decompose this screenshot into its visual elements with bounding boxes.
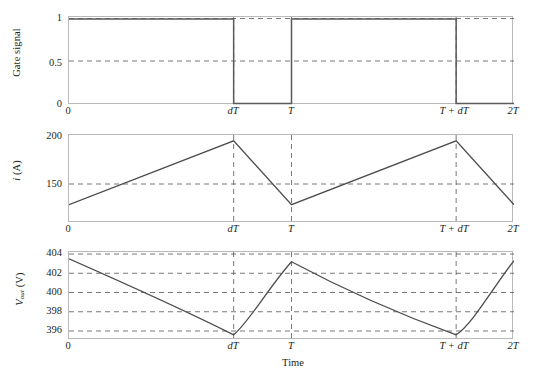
x-tick-gate-TdT: T + dT [421,106,487,117]
y-tick-gate-05: 0.5 [30,58,62,69]
x-tick-vout-dT: dT [213,341,253,352]
x-tick-gate-0: 0 [56,106,80,117]
subplot-gate-signal: Gate signal 1 0.5 0 0 dT T T + dT 2T [0,0,541,118]
output-voltage-svg [69,252,514,340]
x-tick-current-dT: dT [213,224,253,235]
plot-area-output-voltage [68,251,513,339]
x-tick-current-0: 0 [56,224,80,235]
x-tick-gate-T: T [274,106,308,117]
y-axis-label-current: i (A) [11,143,22,199]
y-tick-gate-1: 1 [38,13,62,24]
x-tick-current-T: T [274,224,308,235]
y-tick-vout-400: 400 [30,287,62,298]
y-axis-label-gate-signal: Gate signal [11,13,22,93]
gate-signal-svg [69,17,514,105]
plot-area-gate-signal [68,16,513,104]
y-tick-vout-404: 404 [30,248,62,259]
plot-area-inductor-current [68,134,513,222]
y-tick-vout-398: 398 [30,306,62,317]
x-tick-current-2T: 2T [494,224,532,235]
x-tick-vout-T: T [274,341,308,352]
y-tick-vout-402: 402 [30,268,62,279]
x-tick-current-TdT: T + dT [421,224,487,235]
x-tick-gate-2T: 2T [494,106,532,117]
x-tick-vout-2T: 2T [494,341,532,352]
figure-canvas: Gate signal 1 0.5 0 0 dT T T + dT 2T i ( [0,0,541,381]
y-tick-vout-396: 396 [30,325,62,336]
x-tick-vout-TdT: T + dT [421,341,487,352]
y-tick-current-200: 200 [30,131,62,142]
y-axis-label-output-voltage: Vout (V) [14,251,26,327]
subplot-output-voltage: Vout (V) 404 402 400 398 396 0 dT T T [0,236,541,381]
subplot-inductor-current: i (A) 200 150 0 dT T T + dT 2T [0,118,541,236]
y-tick-current-150: 150 [30,179,62,190]
inductor-current-svg [69,135,514,223]
x-tick-gate-dT: dT [213,106,253,117]
x-tick-vout-0: 0 [56,341,80,352]
x-axis-title: Time [248,357,338,368]
